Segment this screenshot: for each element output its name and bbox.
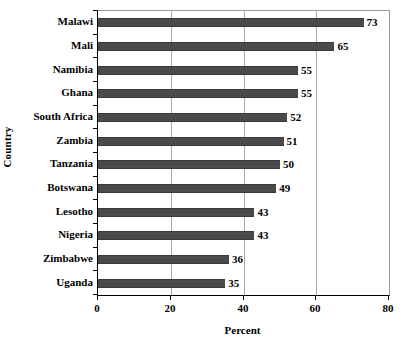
gridline-x-60 [316,11,317,295]
bar [98,42,334,51]
y-axis-tick [93,199,97,200]
y-axis-title: Country [0,0,14,294]
category-label: Lesotho [14,206,93,217]
bar [98,18,364,27]
bar [98,66,298,75]
x-axis-title: Percent [97,324,388,336]
category-label: Tanzania [14,158,93,169]
category-label: Uganda [14,277,93,288]
x-axis-tick [170,295,171,300]
y-axis-tick [93,223,97,224]
category-label: Nigeria [14,229,93,240]
bar-value-label: 51 [287,136,298,147]
bar-value-label: 55 [301,65,312,76]
x-axis-tick-label: 20 [150,303,190,314]
x-axis-tick [243,295,244,300]
bar [98,89,298,98]
category-label: Zimbabwe [14,253,93,264]
y-axis-tick [93,10,97,11]
gridline-x-40 [244,11,245,295]
x-axis-tick-label: 0 [77,303,117,314]
y-axis-tick [93,57,97,58]
category-label: Mali [14,40,93,51]
bar-value-label: 49 [279,183,290,194]
bar-value-label: 43 [257,207,268,218]
bar-value-label: 35 [228,278,239,289]
gridline-x-20 [171,11,172,295]
category-label: Namibia [14,64,93,75]
y-axis-tick [93,128,97,129]
bar [98,208,254,217]
bar-chart: Country MalawiMaliNamibiaGhanaSouth Afri… [0,0,409,351]
bar-value-label: 50 [283,159,294,170]
category-label: Botswana [14,182,93,193]
y-axis-tick [93,270,97,271]
bar [98,113,287,122]
y-axis-tick [93,34,97,35]
category-label: Malawi [14,16,93,27]
bar-value-label: 43 [257,230,268,241]
y-axis-tick [93,247,97,248]
bar-value-label: 65 [337,41,348,52]
category-label: Zambia [14,135,93,146]
category-label: South Africa [14,111,93,122]
bar-value-label: 55 [301,88,312,99]
bar [98,184,276,193]
bar-value-label: 36 [232,254,243,265]
plot-area: 736555555251504943433635 [97,10,390,296]
bar-value-label: 52 [290,112,301,123]
y-axis-tick [93,105,97,106]
category-label-column: MalawiMaliNamibiaGhanaSouth AfricaZambia… [14,10,93,294]
x-axis-tick-label: 60 [295,303,335,314]
x-axis-tick-label: 80 [368,303,408,314]
y-axis-tick [93,176,97,177]
bar-value-label: 73 [367,17,378,28]
x-axis-tick-label: 40 [223,303,263,314]
y-axis-tick [93,81,97,82]
x-axis-tick [388,295,389,300]
bar [98,255,229,264]
bar [98,279,225,288]
x-axis-tick [315,295,316,300]
x-axis-tick [97,295,98,300]
bar [98,160,280,169]
bar [98,137,284,146]
y-axis-tick [93,152,97,153]
y-axis-title-text: Country [1,126,13,167]
bar [98,231,254,240]
category-label: Ghana [14,87,93,98]
